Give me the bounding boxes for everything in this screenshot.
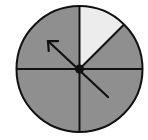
spinner-pivot <box>75 65 84 74</box>
spinner <box>0 0 148 140</box>
spinner-diagram: Spinner <box>0 0 148 140</box>
